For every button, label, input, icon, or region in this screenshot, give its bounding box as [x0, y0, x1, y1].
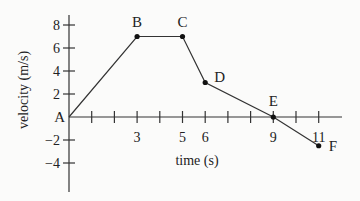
data-point [271, 114, 276, 119]
y-axis-label: velocity (m/s) [16, 51, 32, 129]
y-tick-label: 8 [53, 18, 60, 33]
x-tick-label: 5 [179, 130, 186, 145]
point-label-b: B [132, 14, 142, 30]
x-tick-label: 3 [134, 130, 141, 145]
point-label-a: A [54, 109, 65, 125]
y-tick-label: 2 [53, 87, 60, 102]
x-axis-label: time (s) [175, 153, 218, 169]
data-point [135, 34, 140, 39]
point-label-e: E [269, 93, 278, 109]
point-label-c: C [177, 14, 187, 30]
x-tick-label: 9 [270, 130, 277, 145]
y-tick-label: −4 [45, 156, 60, 171]
data-point [316, 143, 321, 148]
data-point [180, 34, 185, 39]
y-tick-label: −2 [45, 133, 60, 148]
velocity-time-chart: 3569118642−2−4time (s)velocity (m/s)ABCD… [0, 0, 360, 201]
velocity-line [69, 37, 319, 146]
point-label-d: D [214, 69, 225, 85]
x-tick-label: 6 [202, 130, 209, 145]
y-tick-label: 6 [53, 41, 60, 56]
y-tick-label: 4 [53, 64, 60, 79]
point-label-f: F [329, 138, 337, 154]
data-point [203, 80, 208, 85]
